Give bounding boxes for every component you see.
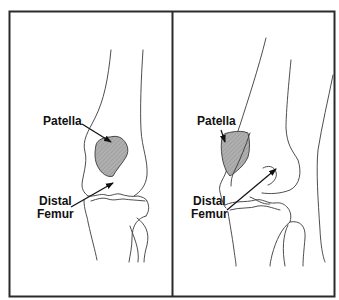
- fibula-outline: [290, 222, 305, 266]
- left-panel: Patella Distal Femur: [37, 50, 149, 262]
- distal-femur-label-line1: Distal: [39, 194, 72, 208]
- patella-label: Patella: [43, 114, 82, 128]
- fibula-outline: [129, 216, 146, 262]
- distal-femur-label-line1: Distal: [193, 194, 226, 208]
- distal-femur-label-line2: Femur: [191, 207, 228, 221]
- distal-femur-label-line2: Femur: [37, 207, 74, 221]
- figure-frame: [10, 12, 335, 297]
- patella-shape: [95, 136, 128, 176]
- knee-anatomy-figure: Patella Distal Femur: [0, 0, 339, 300]
- right-panel: Patella Distal Femur: [191, 38, 333, 266]
- tibia-outline: [228, 212, 236, 266]
- tibia-outline: [84, 200, 97, 260]
- patella-label: Patella: [197, 114, 236, 128]
- patella-arrow: [82, 124, 111, 142]
